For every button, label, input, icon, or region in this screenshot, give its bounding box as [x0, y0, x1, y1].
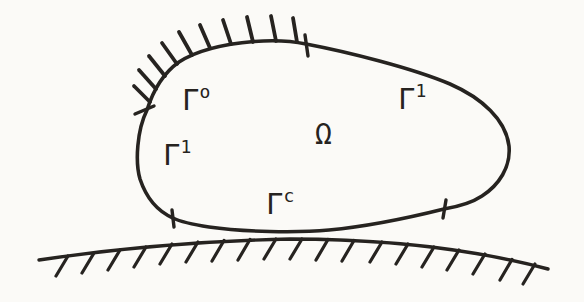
boundary-tick [305, 35, 308, 56]
superscript: 1 [180, 136, 190, 157]
omega-label: Ω [315, 121, 332, 149]
obstacle-hatch-stroke [108, 250, 120, 270]
clamped-hatch-stroke [179, 32, 192, 55]
label-gamma-0: Γo [182, 86, 209, 115]
obstacle-hatch-stroke [370, 242, 382, 262]
boundary-tick [443, 200, 446, 218]
clamped-hatch-stroke [293, 18, 297, 42]
obstacle-hatch-stroke [447, 250, 459, 270]
obstacle-hatch-stroke [264, 239, 276, 259]
clamped-hatch-stroke [139, 70, 156, 89]
gamma-symbol: Γ [182, 83, 198, 117]
label-gamma-c: Γc [266, 190, 293, 219]
label-gamma-1-right: Γ1 [398, 85, 425, 114]
clamped-hatch-stroke [271, 16, 276, 41]
obstacle-hatch-stroke [82, 253, 94, 273]
clamped-hatch-stroke [162, 43, 177, 64]
obstacle-hatch-stroke [134, 247, 146, 267]
superscript: c [283, 185, 293, 206]
clamped-hatch-stroke [247, 17, 253, 42]
obstacle-hatch-stroke [396, 244, 408, 264]
obstacle-hatch-stroke [316, 240, 328, 261]
clamped-hatch-stroke [200, 25, 210, 48]
gamma-symbol: Γ [163, 138, 179, 172]
obstacle-hatch-stroke [238, 240, 250, 261]
clamped-boundary-hatching [134, 16, 297, 102]
obstacle-hatch-stroke [342, 241, 354, 262]
obstacle-hatch-stroke [422, 247, 434, 267]
superscript: o [199, 81, 209, 102]
clamped-hatch-stroke [223, 20, 231, 44]
obstacle-hatch-stroke [523, 264, 535, 284]
superscript: 1 [415, 80, 425, 101]
obstacle-hatching [56, 239, 535, 284]
gamma-symbol: Γ [266, 187, 282, 221]
obstacle-hatch-stroke [473, 254, 485, 274]
obstacle-hatch-stroke [290, 239, 302, 259]
obstacle-hatch-stroke [500, 260, 512, 281]
clamped-hatch-stroke [134, 86, 150, 102]
clamped-hatch-stroke [149, 56, 165, 76]
gamma-symbol: Γ [398, 82, 414, 116]
label-gamma-1-left: Γ1 [163, 141, 190, 170]
boundary-tick [172, 210, 174, 227]
contact-problem-figure [0, 0, 584, 302]
figure-canvas: Ω ΓoΓ1Γ1Γc [0, 0, 584, 302]
